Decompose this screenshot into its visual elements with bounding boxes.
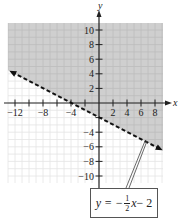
equation-label: y = − 1 2 x − 2 [90,188,158,218]
x-tick-label: 4 [125,107,130,118]
x-tick-label: −12 [7,107,23,118]
y-tick-label: 4 [89,68,94,79]
x-tick-label: 8 [153,107,158,118]
x-tick-label: −8 [38,107,49,118]
y-axis-label: y [97,0,103,11]
annotation-leader-lines [126,141,147,188]
x-axis-label: x [172,97,178,108]
x-tick-label: −4 [66,107,77,118]
y-tick-label: −4 [83,127,94,138]
y-tick-label: −10 [78,171,94,182]
equation-lhs: y = − [96,196,124,211]
equation-fraction: 1 2 [124,194,130,213]
y-tick-label: −6 [83,141,94,152]
y-tick-label: 2 [89,83,94,94]
y-tick-label: 6 [89,54,94,65]
equation-rhs: − 2 [137,196,153,211]
fraction-denominator: 2 [125,204,129,213]
x-tick-label: 2 [111,107,116,118]
y-tick-label: 8 [89,39,94,50]
fraction-numerator: 1 [124,194,130,204]
y-tick-label: −8 [83,156,94,167]
x-tick-label: 6 [139,107,144,118]
y-tick-label: 10 [84,25,94,36]
